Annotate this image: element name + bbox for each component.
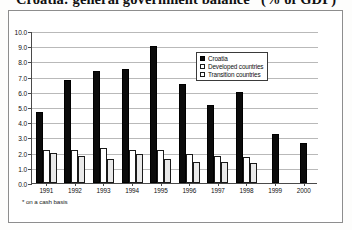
bar-group: 1998 (232, 92, 261, 183)
plot-area: 0.01.02.03.04.05.06.07.08.09.010.0199119… (31, 32, 317, 184)
y-axis-label: 9.0 (18, 44, 27, 51)
x-axis-label: 1999 (268, 187, 282, 194)
legend-item: Transition countries (200, 71, 263, 78)
bar-developed (129, 150, 136, 183)
bar-croatia (300, 143, 307, 183)
y-axis-tick (28, 184, 32, 185)
bar-developed (100, 148, 107, 183)
bar-developed (43, 150, 50, 183)
bar-croatia (150, 46, 157, 183)
bar-developed (186, 154, 193, 183)
bar-croatia (207, 105, 214, 183)
x-axis-label: 2000 (297, 187, 311, 194)
x-axis-tick (246, 183, 247, 186)
x-axis-tick (46, 183, 47, 186)
gridline (32, 47, 318, 48)
chart-footnote: * on a cash basis (22, 198, 67, 205)
bar-croatia (64, 80, 71, 183)
chart-figure: Croatia: general government balance* (% … (0, 0, 352, 230)
bar-group: 1996 (175, 84, 204, 183)
x-axis-label: 1993 (97, 187, 111, 194)
y-axis-label: 7.0 (18, 74, 27, 81)
bar-group: 1991 (32, 112, 61, 183)
y-axis-label: 10.0 (15, 29, 27, 36)
x-axis-label: 1992 (68, 187, 82, 194)
y-axis-tick (28, 32, 32, 33)
x-axis-tick (218, 183, 219, 186)
bar-transition (78, 156, 85, 183)
bar-developed (243, 157, 250, 183)
y-axis-label: 2.0 (18, 150, 27, 157)
x-axis-label: 1998 (240, 187, 254, 194)
y-axis-label: 4.0 (18, 120, 27, 127)
legend-swatch-transition (200, 72, 205, 77)
bar-transition (221, 162, 228, 183)
x-axis-label: 1991 (39, 187, 53, 194)
bar-croatia (93, 71, 100, 183)
y-axis-tick (28, 108, 32, 109)
bar-developed (214, 156, 221, 183)
bar-group: 2000 (289, 143, 318, 183)
bar-group: 1992 (61, 80, 90, 183)
x-axis-tick (103, 183, 104, 186)
bar-developed (157, 150, 164, 183)
legend-swatch-developed (200, 64, 205, 69)
legend-item-label: Developed countries (208, 63, 263, 70)
x-axis-tick (161, 183, 162, 186)
bar-croatia (236, 92, 243, 183)
chart-legend: CroatiaDeveloped countriesTransition cou… (196, 52, 268, 81)
chart-title: Croatia: general government balance* (% … (0, 0, 352, 9)
bar-group: 1999 (261, 134, 290, 183)
gridline (32, 32, 318, 33)
bar-croatia (122, 69, 129, 183)
bar-croatia (36, 112, 43, 183)
x-axis-label: 1994 (125, 187, 139, 194)
y-axis-tick (28, 78, 32, 79)
y-axis-label: 3.0 (18, 135, 27, 142)
legend-item-label: Croatia (208, 55, 228, 62)
x-axis-tick (75, 183, 76, 186)
legend-item: Developed countries (200, 63, 263, 70)
x-axis-tick (304, 183, 305, 186)
legend-item: Croatia (200, 55, 263, 62)
x-axis-tick (189, 183, 190, 186)
bar-transition (50, 153, 57, 183)
x-axis-tick (275, 183, 276, 186)
y-axis-label: 1.0 (18, 165, 27, 172)
x-axis-label: 1996 (182, 187, 196, 194)
y-axis-tick (28, 62, 32, 63)
x-axis-label: 1997 (211, 187, 225, 194)
bar-transition (164, 159, 171, 183)
legend-item-label: Transition countries (208, 71, 261, 78)
bar-group: 1995 (146, 46, 175, 183)
bar-developed (71, 150, 78, 183)
bar-transition (193, 162, 200, 183)
bar-group: 1997 (204, 105, 233, 183)
bar-group: 1994 (118, 69, 147, 183)
bar-transition (250, 163, 257, 183)
bar-croatia (272, 134, 279, 183)
y-axis-label: 6.0 (18, 89, 27, 96)
y-axis-label: 0.0 (18, 181, 27, 188)
gridline (32, 78, 318, 79)
y-axis-label: 5.0 (18, 105, 27, 112)
legend-swatch-croatia (200, 56, 205, 61)
y-axis-tick (28, 93, 32, 94)
x-axis-label: 1995 (154, 187, 168, 194)
bar-transition (107, 159, 114, 183)
bar-group: 1993 (89, 71, 118, 183)
bar-transition (136, 154, 143, 183)
bar-croatia (179, 84, 186, 183)
gridline (32, 62, 318, 63)
y-axis-tick (28, 47, 32, 48)
y-axis-label: 8.0 (18, 59, 27, 66)
x-axis-tick (132, 183, 133, 186)
